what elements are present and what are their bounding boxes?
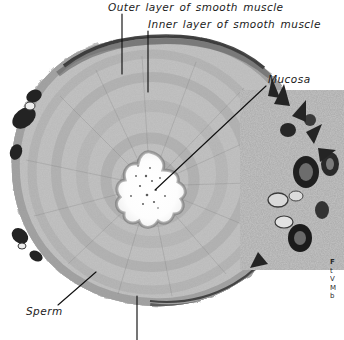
micrograph-canvas (0, 0, 344, 340)
label-outer-layer-of-smooth-muscle: Outer layer of smooth muscle (108, 2, 283, 13)
caption-line-1: F (330, 258, 344, 267)
caption-line-2: t (330, 267, 344, 276)
histology-figure: Outer layer of smooth muscle Inner layer… (0, 0, 344, 340)
adventitia-projections (240, 78, 344, 270)
label-mucosa: Mucosa (268, 74, 311, 85)
caption-line-4: M (330, 284, 344, 293)
label-sperm: Sperm (26, 306, 63, 317)
figure-caption-clipped: F t V M b (330, 258, 344, 301)
label-inner-layer-of-smooth-muscle: Inner layer of smooth muscle (148, 19, 321, 30)
caption-line-3: V (330, 275, 344, 284)
caption-line-5: b (330, 292, 344, 301)
tissue-section (0, 0, 344, 340)
